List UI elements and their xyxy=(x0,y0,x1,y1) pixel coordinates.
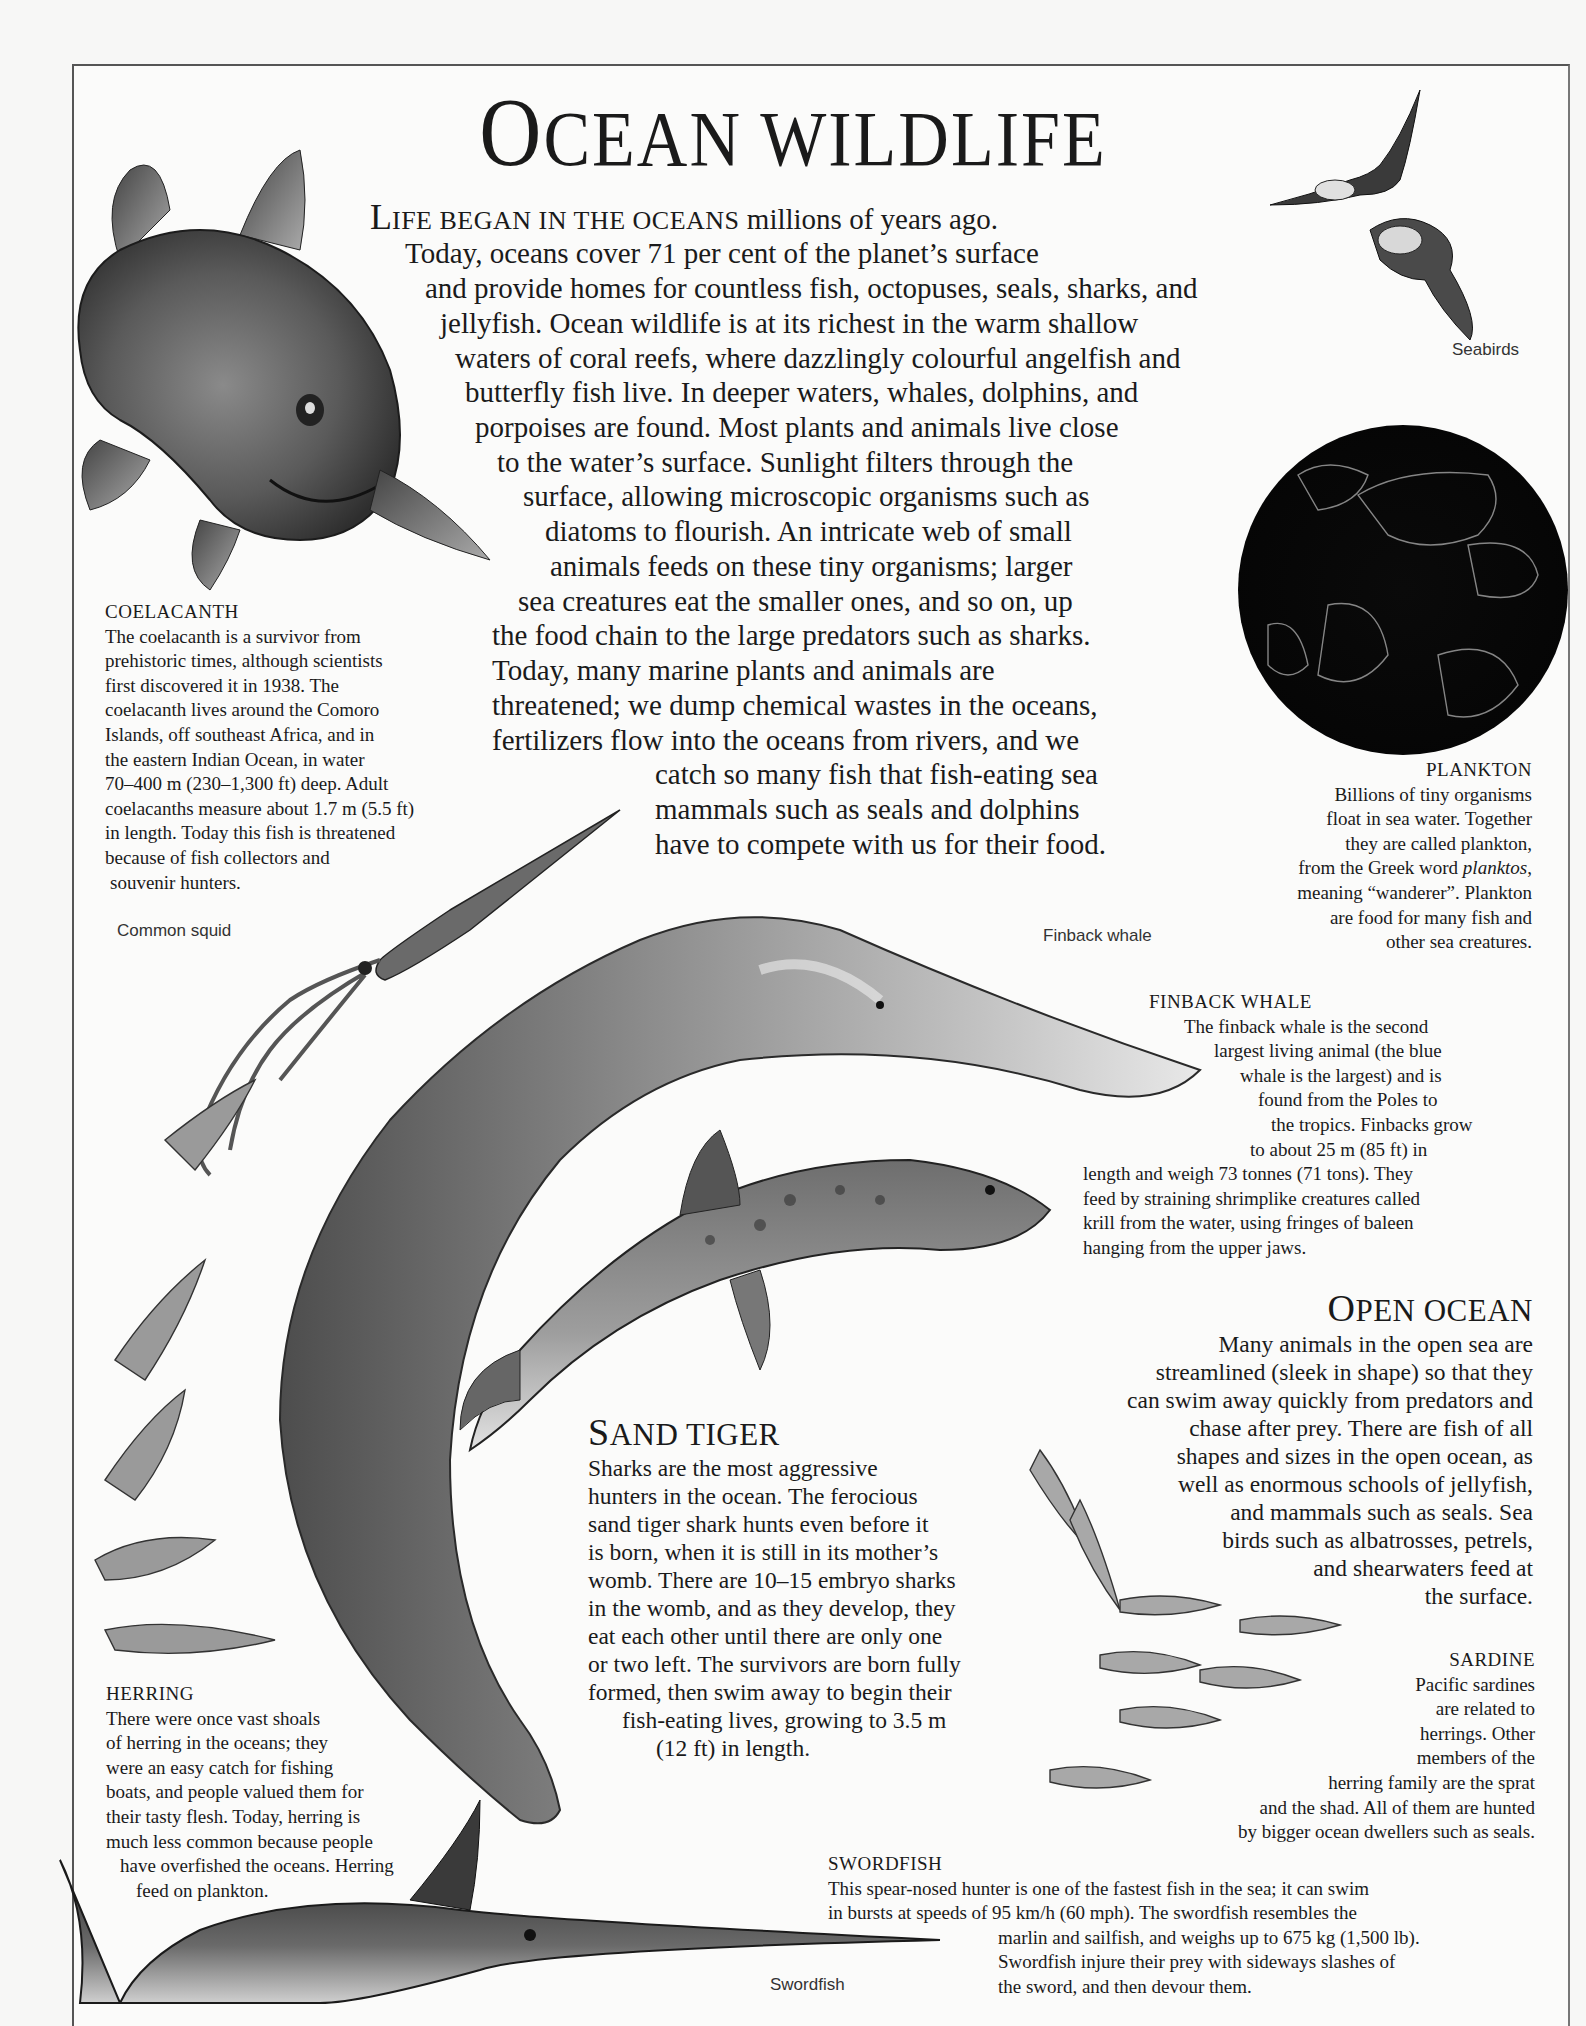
caption-line: Swordfish injure their prey with sideway… xyxy=(828,1950,1528,1975)
heading-rest: AND TIGER xyxy=(610,1417,780,1452)
caption-line: largest living animal (the blue xyxy=(1214,1039,1543,1064)
caption-line: Islands, off southeast Africa, and in xyxy=(105,723,485,748)
body-line: fish-eating lives, growing to 3.5 m xyxy=(588,1706,1048,1734)
finback-whale-caption: FINBACK WHALE The finback whale is the s… xyxy=(1083,990,1543,1261)
swordfish-caption: SWORDFISH This spear-nosed hunter is one… xyxy=(828,1852,1528,2000)
page-title-rest: CEAN WILDLIFE xyxy=(543,95,1106,181)
caption-line: float in sea water. Together xyxy=(1230,807,1532,832)
body-line: in the womb, and as they develop, they xyxy=(588,1594,1048,1622)
caption-line: The finback whale is the second xyxy=(1184,1015,1543,1040)
caption-line: prehistoric times, although scientists xyxy=(105,649,485,674)
caption-line: of herring in the oceans; they xyxy=(106,1731,466,1756)
common-squid-label: Common squid xyxy=(117,921,231,941)
caption-line: much less common because people xyxy=(106,1830,466,1855)
body-line: is born, when it is still in its mother’… xyxy=(588,1538,1048,1566)
caption-line: other sea creatures. xyxy=(1230,930,1532,955)
caption-line: souvenir hunters. xyxy=(105,871,485,896)
heading-cap: O xyxy=(1327,1287,1355,1329)
caption-text: , xyxy=(1527,857,1532,878)
body-line: or two left. The survivors are born full… xyxy=(588,1650,1048,1678)
body-line: chase after prey. There are fish of all xyxy=(1000,1414,1533,1442)
swordfish-heading: SWORDFISH xyxy=(828,1852,1528,1877)
body-line: Many animals in the open sea are xyxy=(1000,1330,1533,1358)
caption-line: This spear-nosed hunter is one of the fa… xyxy=(828,1877,1528,1902)
herring-caption: HERRING There were once vast shoals of h… xyxy=(106,1682,466,1903)
caption-line: their tasty flesh. Today, herring is xyxy=(106,1805,466,1830)
body-line: and mammals such as seals. Sea xyxy=(1000,1498,1533,1526)
caption-text: from the Greek word xyxy=(1298,857,1463,878)
caption-line: feed on plankton. xyxy=(106,1879,466,1904)
body-line: Sharks are the most aggressive xyxy=(588,1454,1048,1482)
caption-line: boats, and people valued them for xyxy=(106,1780,466,1805)
body-line: and shearwaters feed at xyxy=(1000,1554,1533,1582)
heading-rest: PEN OCEAN xyxy=(1355,1293,1533,1328)
body-line: hunters in the ocean. The ferocious xyxy=(588,1482,1048,1510)
caption-line: in bursts at speeds of 95 km/h (60 mph).… xyxy=(828,1901,1528,1926)
open-ocean-section: OPEN OCEAN Many animals in the open sea … xyxy=(1000,1286,1533,1610)
coelacanth-heading: COELACANTH xyxy=(105,600,485,625)
herring-heading: HERRING xyxy=(106,1682,466,1707)
caption-line: are related to xyxy=(1200,1697,1535,1722)
body-line: eat each other until there are only one xyxy=(588,1622,1048,1650)
caption-line: Billions of tiny organisms xyxy=(1230,783,1532,808)
caption-line: from the Greek word planktos, xyxy=(1230,856,1532,881)
page-title: OCEAN WILDLIFE xyxy=(0,84,1586,180)
caption-line: have overfished the oceans. Herring xyxy=(106,1854,466,1879)
sand-tiger-heading: SAND TIGER xyxy=(588,1410,1048,1454)
sardine-caption: SARDINE Pacific sardines are related to … xyxy=(1200,1648,1535,1845)
caption-line: length and weigh 73 tonnes (71 tons). Th… xyxy=(1083,1162,1543,1187)
caption-line: the tropics. Finbacks grow xyxy=(1271,1113,1543,1138)
caption-line: members of the xyxy=(1200,1746,1535,1771)
caption-line: 70–400 m (230–1,300 ft) deep. Adult xyxy=(105,772,485,797)
body-line: womb. There are 10–15 embryo sharks xyxy=(588,1566,1048,1594)
caption-line: coelacanth lives around the Comoro xyxy=(105,698,485,723)
body-line: streamlined (sleek in shape) so that the… xyxy=(1000,1358,1533,1386)
sardine-heading: SARDINE xyxy=(1200,1648,1535,1673)
caption-line: hanging from the upper jaws. xyxy=(1083,1236,1543,1261)
caption-line: coelacanths measure about 1.7 m (5.5 ft) xyxy=(105,797,485,822)
caption-line: There were once vast shoals xyxy=(106,1707,466,1732)
coelacanth-illustration xyxy=(60,140,500,590)
open-ocean-body: Many animals in the open sea are streaml… xyxy=(1000,1330,1533,1610)
plankton-heading: PLANKTON xyxy=(1230,758,1532,783)
sand-tiger-section: SAND TIGER Sharks are the most aggressiv… xyxy=(588,1410,1048,1762)
caption-line: The coelacanth is a survivor from xyxy=(105,625,485,650)
herring-school-illustration xyxy=(85,1060,305,1660)
caption-italic-word: planktos xyxy=(1463,857,1527,878)
sand-tiger-body: Sharks are the most aggressive hunters i… xyxy=(588,1454,1048,1762)
caption-line: herrings. Other xyxy=(1200,1722,1535,1747)
caption-line: found from the Poles to xyxy=(1258,1088,1543,1113)
caption-line: by bigger ocean dwellers such as seals. xyxy=(1200,1820,1535,1845)
body-line: sand tiger shark hunts even before it xyxy=(588,1510,1048,1538)
caption-line: the sword, and then devour them. xyxy=(828,1975,1528,2000)
body-line: (12 ft) in length. xyxy=(588,1734,1048,1762)
caption-line: whale is the largest) and is xyxy=(1240,1064,1543,1089)
heading-cap: S xyxy=(588,1411,610,1453)
caption-line: marlin and sailfish, and weighs up to 67… xyxy=(828,1926,1528,1951)
caption-line: because of fish collectors and xyxy=(105,846,485,871)
caption-line: krill from the water, using fringes of b… xyxy=(1083,1211,1543,1236)
caption-line: Pacific sardines xyxy=(1200,1673,1535,1698)
caption-line: are food for many fish and xyxy=(1230,906,1532,931)
coelacanth-caption: COELACANTH The coelacanth is a survivor … xyxy=(105,600,485,895)
body-line: can swim away quickly from predators and xyxy=(1000,1386,1533,1414)
plankton-photo xyxy=(1238,425,1568,755)
body-line: birds such as albatrosses, petrels, xyxy=(1000,1526,1533,1554)
caption-line: first discovered it in 1938. The xyxy=(105,674,485,699)
body-line: well as enormous schools of jellyfish, xyxy=(1000,1470,1533,1498)
caption-line: the eastern Indian Ocean, in water xyxy=(105,748,485,773)
body-line: formed, then swim away to begin their xyxy=(588,1678,1048,1706)
page-title-initial: O xyxy=(479,78,543,186)
body-line: the surface. xyxy=(1000,1582,1533,1610)
caption-line: feed by straining shrimplike creatures c… xyxy=(1083,1187,1543,1212)
caption-line: herring family are the sprat xyxy=(1200,1771,1535,1796)
open-ocean-heading: OPEN OCEAN xyxy=(1000,1286,1533,1330)
caption-line: were an easy catch for fishing xyxy=(106,1756,466,1781)
plankton-caption: PLANKTON Billions of tiny organisms floa… xyxy=(1230,758,1532,955)
caption-line: they are called plankton, xyxy=(1230,832,1532,857)
finback-heading: FINBACK WHALE xyxy=(1149,990,1543,1015)
caption-line: to about 25 m (85 ft) in xyxy=(1250,1138,1543,1163)
caption-line: and the shad. All of them are hunted xyxy=(1200,1796,1535,1821)
seabirds-label: Seabirds xyxy=(1452,340,1519,360)
caption-line: meaning “wanderer”. Plankton xyxy=(1230,881,1532,906)
